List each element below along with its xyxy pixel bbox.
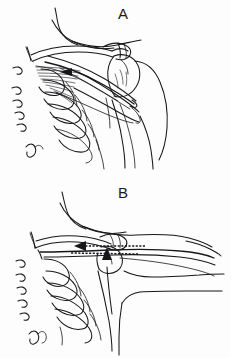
- spinous-processes: [16, 260, 62, 345]
- panel-b-drawing: [0, 179, 231, 358]
- panel-a-label: A: [118, 6, 129, 21]
- inferior-border-dashes: [70, 253, 138, 254]
- torso-contour: [98, 271, 224, 355]
- clavicle: [30, 232, 112, 250]
- rib-cage: [43, 259, 101, 343]
- panel-b: B: [0, 179, 231, 358]
- neck-contour: [60, 192, 126, 233]
- torso-contour: [96, 140, 104, 169]
- arm-contour: [106, 61, 167, 169]
- spinous-processes: [12, 67, 43, 157]
- inferior-angle-pointer: [102, 247, 112, 314]
- rib-cage: [39, 69, 99, 163]
- clavicle: [26, 46, 113, 62]
- panel-b-label: B: [118, 185, 129, 200]
- panel-a-drawing: [0, 0, 231, 179]
- panel-a: A: [0, 0, 231, 179]
- figure-root: A: [0, 0, 231, 358]
